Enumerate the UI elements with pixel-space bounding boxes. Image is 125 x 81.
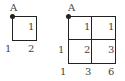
corner-label-a: A <box>68 3 75 13</box>
cell-value: 1 <box>28 22 34 32</box>
corner-point <box>66 14 71 19</box>
bottom-label-3: 6 <box>108 67 114 77</box>
corner-point <box>10 14 15 19</box>
bottom-label-1: 1 <box>60 67 66 77</box>
bottom-right-label: 2 <box>28 44 34 54</box>
bottom-label-2: 3 <box>85 67 91 77</box>
grid-horizontal-line <box>68 39 116 40</box>
cell-value-top-left: 1 <box>84 22 90 32</box>
cell-value-top-right: 1 <box>108 22 114 32</box>
bottom-left-label: 1 <box>5 44 11 54</box>
cell-value-bottom-right: 3 <box>108 45 114 55</box>
corner-label-a: A <box>10 3 17 13</box>
cell-value-bottom-left: 2 <box>84 45 90 55</box>
left-mid-label: 1 <box>58 45 64 55</box>
